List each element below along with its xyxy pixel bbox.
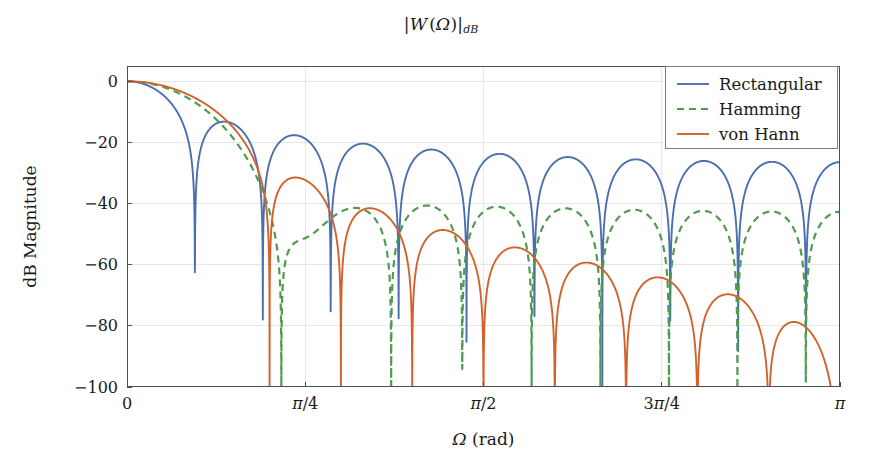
x-tick-label: 3π/4 <box>644 394 680 413</box>
y-tick-label: −60 <box>84 255 118 274</box>
title-symbol-omega: Ω <box>436 14 450 34</box>
y-tick-label: −80 <box>84 316 118 335</box>
y-tick-label: −20 <box>84 133 118 152</box>
legend-label-hamming: Hamming <box>719 100 801 119</box>
window-magnitude-figure: |W (Ω)|dB 0π/4π/23π/4π0−20−40−60−80−100 … <box>0 0 882 475</box>
chart-title: |W (Ω)|dB <box>0 14 882 36</box>
x-axis-title: Ω (rad) <box>452 429 515 449</box>
plot-canvas: 0π/4π/23π/4π0−20−40−60−80−100 Ω (rad) dB… <box>0 0 882 475</box>
legend: RectangularHammingvon Hann <box>666 67 838 149</box>
x-tick-label: π/4 <box>291 394 318 413</box>
x-tick-label: π <box>834 394 846 413</box>
x-tick-label: 0 <box>122 394 132 413</box>
legend-label-von-hann: von Hann <box>718 125 800 144</box>
y-tick-label: −40 <box>84 194 118 213</box>
y-tick-label: −100 <box>74 378 118 397</box>
title-subscript-db: dB <box>463 23 478 36</box>
x-tick-label: π/2 <box>469 394 496 413</box>
y-tick-label: 0 <box>108 72 118 91</box>
legend-label-rectangular: Rectangular <box>719 75 822 94</box>
title-symbol-w: W <box>410 14 428 34</box>
y-axis-title: dB Magnitude <box>20 165 40 287</box>
